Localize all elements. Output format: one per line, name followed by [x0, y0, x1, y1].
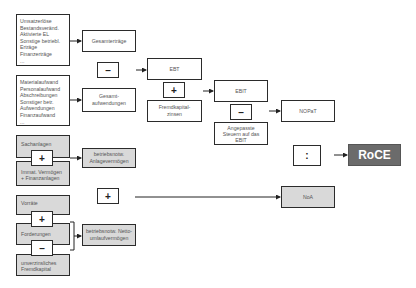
angepasste-steuern-box: Angepasste Steuern auf das EBIT: [214, 122, 268, 145]
minus-operator: –: [230, 104, 252, 120]
expense-item: ...: [20, 119, 66, 126]
vorraete-label: Vorräte: [21, 200, 38, 207]
plus-operator: +: [31, 211, 53, 227]
ebit-box: EBIT: [214, 80, 268, 102]
revenue-item: Umsatzerlöse: [20, 18, 66, 25]
expense-item: Finanzaufwand: [20, 112, 66, 119]
unverzinsliches-fremdkapital-box: unverzinsliches Fremdkapital: [16, 254, 70, 276]
roce-label: RoCE: [358, 148, 391, 162]
fremdkapitalzinsen-label: zinsen: [167, 111, 182, 118]
plus-operator: +: [31, 150, 53, 166]
plus-operator: +: [97, 188, 119, 204]
anlagevermoegen-label: Anlagevermögen: [89, 158, 128, 165]
expense-items-box: Materialaufwand Personalaufwand Abschrei…: [16, 75, 70, 126]
divide-operator: :: [293, 145, 321, 166]
plus-operator: +: [163, 82, 185, 98]
minus-operator: –: [97, 62, 119, 78]
noa-box: NoA: [281, 186, 335, 208]
ebt-label: EBT: [169, 66, 179, 73]
anlagevermoegen-box: betriebsnotw. Anlagevermögen: [82, 148, 136, 168]
immat-label: + Finanzanlagen: [21, 175, 60, 182]
expense-item: Aufwendungen: [20, 105, 66, 112]
gesamtertraege-box: Gesamterträge: [82, 30, 136, 52]
expense-item: Personalaufwand: [20, 86, 66, 93]
gesamtertraege-label: Gesamterträge: [92, 38, 127, 45]
nettoumlauf-label: betriebsnotw. Netto-: [86, 228, 132, 235]
minus-operator: –: [31, 240, 53, 256]
revenue-item: Aktivierte EL: [20, 31, 66, 38]
expense-item: Materialaufwand: [20, 79, 66, 86]
expense-item: Abschreibungen: [20, 92, 66, 99]
revenue-item: Sonstige betriebl.: [20, 38, 66, 45]
expense-item: Sonstiger betr.: [20, 99, 66, 106]
ebit-label: EBIT: [235, 88, 247, 95]
revenue-item: Finanzerträge: [20, 51, 66, 58]
nopat-label: NOPaT: [299, 108, 316, 115]
revenue-item: Erträge: [20, 44, 66, 51]
sachanlagen-label: Sachanlagen: [21, 141, 51, 148]
fremdkapitalzinsen-label: Fremdkapital-: [159, 104, 191, 111]
immat-label: Immat. Vermögen: [21, 169, 62, 176]
unverz-label: Fremdkapital: [21, 266, 51, 273]
anlagevermoegen-label: betriebsnotw.: [94, 151, 125, 158]
nettoumlauf-label: umlaufvermögen: [90, 235, 129, 242]
unverz-label: unverzinsliches: [21, 260, 56, 267]
nettoumlaufvermoegen-box: betriebsnotw. Netto- umlaufvermögen: [82, 224, 136, 246]
ebt-box: EBT: [147, 58, 202, 80]
revenue-item: ...: [20, 58, 66, 65]
revenue-items-box: Umsatzerlöse Bestandsveränd. Aktivierte …: [16, 14, 70, 66]
fremdkapitalzinsen-box: Fremdkapital- zinsen: [147, 100, 202, 122]
gesamtaufwendungen-box: Gesamt- aufwendungen: [82, 88, 136, 112]
nopat-box: NOPaT: [281, 100, 335, 122]
noa-label: NoA: [303, 194, 313, 201]
revenue-item: Bestandsveränd.: [20, 25, 66, 32]
steuern-label: EBIT: [235, 137, 247, 143]
gesamtaufwendungen-label: aufwendungen: [92, 100, 126, 107]
gesamtaufwendungen-label: Gesamt-: [99, 93, 119, 100]
roce-box: RoCE: [348, 144, 401, 166]
forderungen-label: Forderungen: [21, 231, 51, 238]
